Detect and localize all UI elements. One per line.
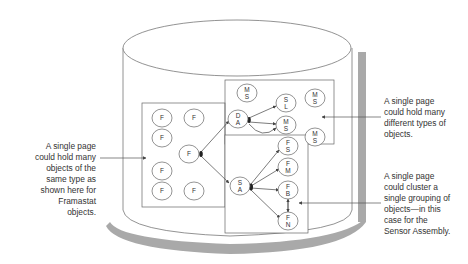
object-node: MS — [237, 84, 257, 102]
svg-text:S: S — [284, 125, 289, 132]
annotation-line: different types of — [384, 118, 468, 129]
svg-text:F: F — [286, 160, 290, 167]
object-node: FN — [278, 212, 298, 230]
svg-text:F: F — [160, 187, 164, 194]
annotation-framastat: A single page could hold many objects of… — [2, 141, 96, 218]
annotation-line: single grouping of — [384, 193, 468, 204]
object-node: F — [152, 162, 172, 180]
object-node: SL — [276, 94, 296, 112]
annotation-line: objects. — [384, 129, 468, 140]
svg-text:S: S — [245, 93, 250, 100]
object-node: FB — [278, 181, 298, 199]
annotation-line: could cluster a — [384, 182, 468, 193]
svg-text:F: F — [286, 183, 290, 190]
svg-text:A: A — [238, 186, 243, 193]
svg-text:F: F — [286, 139, 290, 146]
object-node: F — [152, 109, 172, 127]
annotation-line: objects. — [2, 207, 96, 218]
svg-text:S: S — [238, 179, 243, 186]
svg-text:M: M — [244, 86, 249, 93]
svg-text:B: B — [286, 190, 290, 197]
svg-text:F: F — [187, 150, 191, 157]
object-node: F — [179, 145, 199, 163]
svg-text:M: M — [283, 118, 288, 125]
object-node: F — [184, 182, 204, 200]
annotation-line: objects—in this — [384, 204, 468, 215]
svg-text:S: S — [286, 146, 291, 153]
svg-text:F: F — [192, 187, 196, 194]
annotation-line: shown here for — [2, 185, 96, 196]
svg-text:D: D — [236, 112, 241, 119]
annotation-line: objects of the — [2, 163, 96, 174]
object-node: F — [184, 109, 204, 127]
annotation-line: A single page — [384, 96, 468, 107]
object-node: F — [152, 182, 172, 200]
annotation-line: could hold many — [384, 107, 468, 118]
svg-text:F: F — [286, 214, 290, 221]
svg-text:L: L — [284, 103, 288, 110]
svg-text:M: M — [285, 167, 290, 174]
annotation-line: case for the — [384, 215, 468, 226]
svg-text:F: F — [160, 167, 164, 174]
annotation-mixed-types: A single page could hold many different … — [384, 96, 468, 140]
annotation-line: Framastat — [2, 196, 96, 207]
svg-text:F: F — [192, 114, 196, 121]
svg-text:M: M — [312, 130, 317, 137]
annotation-line: could hold many — [2, 152, 96, 163]
svg-text:S: S — [313, 98, 318, 105]
object-node: MS — [305, 89, 325, 107]
svg-text:M: M — [312, 91, 317, 98]
object-node: SA — [230, 177, 250, 195]
annotation-line: same type as — [2, 174, 96, 185]
svg-text:F: F — [160, 114, 164, 121]
object-node: MS — [305, 128, 325, 146]
annotation-line: Sensor Assembly. — [384, 226, 468, 237]
svg-text:F: F — [160, 134, 164, 141]
object-node: FM — [278, 158, 298, 176]
object-node: DA — [228, 110, 248, 128]
annotation-line: A single page — [2, 141, 96, 152]
object-node: F — [152, 129, 172, 147]
object-node: MS — [276, 116, 296, 134]
svg-text:S: S — [313, 137, 318, 144]
object-node: FS — [278, 137, 298, 155]
annotation-sensor-assembly: A single page could cluster a single gro… — [384, 171, 468, 237]
svg-text:A: A — [236, 119, 241, 126]
svg-text:S: S — [284, 96, 289, 103]
annotation-line: A single page — [384, 171, 468, 182]
svg-text:N: N — [286, 221, 291, 228]
